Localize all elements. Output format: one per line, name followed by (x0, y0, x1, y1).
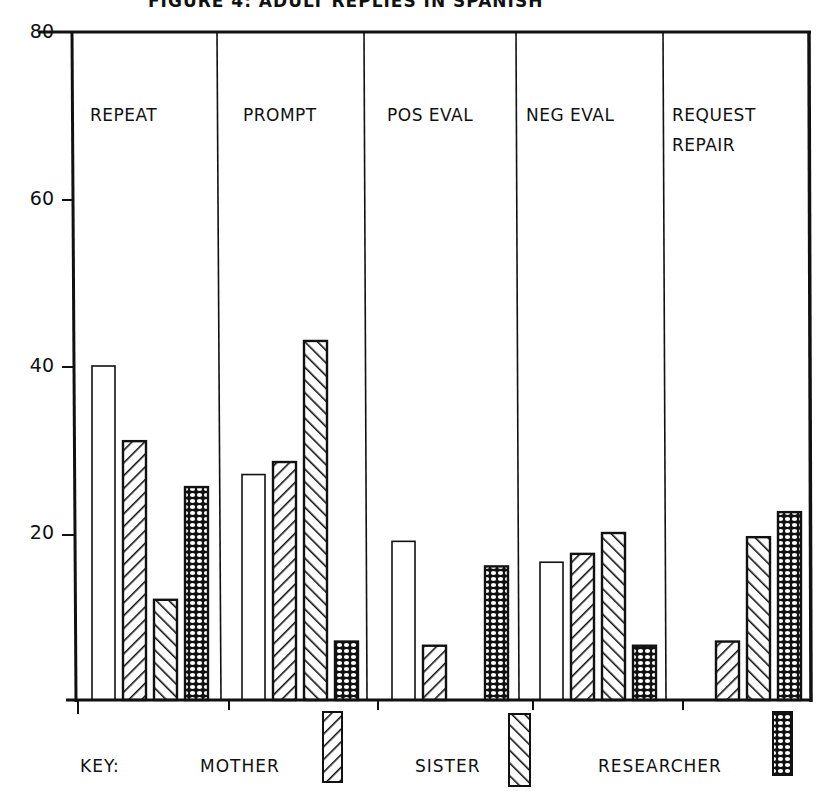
key-label: KEY: (80, 756, 120, 776)
bar-mother-repeat (123, 441, 146, 700)
key-swatch-researcher (773, 712, 792, 775)
bar-researcher-request-repair (778, 512, 801, 700)
key-swatch-mother (323, 712, 342, 782)
group-divider (516, 32, 519, 700)
legend-item-researcher: RESEARCHER (598, 756, 722, 776)
bar-sister-repeat (154, 600, 177, 700)
plot-area (0, 0, 829, 810)
bar-researcher-prompt (335, 642, 358, 700)
key-swatch-sister (509, 714, 530, 786)
bar-researcher-repeat (185, 487, 208, 700)
legend-item-sister: SISTER (415, 756, 481, 776)
group-divider (663, 32, 666, 700)
bar-mother-pos-eval (423, 646, 446, 700)
group-divider (217, 32, 221, 700)
bar-researcher-neg-eval (633, 646, 656, 700)
chart: FIGURE 4: ADULT REPLIES IN SPANISH 80 60… (0, 0, 829, 810)
bar-sister-neg-eval (602, 533, 625, 700)
bar-unlabeled-repeat (92, 366, 115, 700)
bar-unlabeled-prompt (242, 475, 265, 700)
bar-researcher-pos-eval (485, 566, 508, 700)
bar-unlabeled-pos-eval (392, 541, 415, 700)
bar-mother-prompt (273, 462, 296, 700)
bars-group (92, 341, 801, 700)
legend-item-mother: MOTHER (200, 756, 280, 776)
group-divider (364, 32, 367, 700)
bar-unlabeled-neg-eval (540, 562, 563, 700)
bar-sister-request-repair (747, 537, 770, 700)
bar-mother-request-repair (716, 642, 739, 700)
bar-sister-prompt (304, 341, 327, 700)
bar-mother-neg-eval (571, 554, 594, 700)
right-border (809, 32, 811, 702)
